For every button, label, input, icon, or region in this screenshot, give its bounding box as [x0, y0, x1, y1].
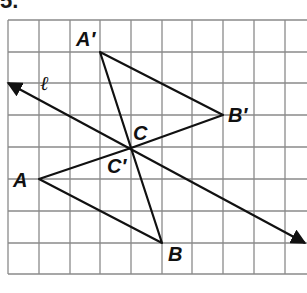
label-a: A — [12, 169, 27, 191]
coordinate-grid — [8, 20, 307, 274]
label-c-prime: C′ — [107, 155, 127, 177]
label-line-l: ℓ — [40, 72, 49, 94]
label-a-prime: A′ — [75, 28, 96, 50]
label-b: B — [168, 243, 182, 265]
label-b-prime: B′ — [228, 104, 248, 126]
label-c: C — [133, 122, 148, 144]
reflection-diagram: A′B′CC′ABℓ — [0, 0, 307, 293]
line-l — [8, 83, 305, 243]
